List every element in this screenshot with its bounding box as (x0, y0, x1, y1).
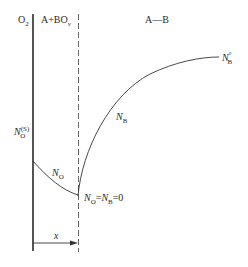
scale-region-label: A+BOν (41, 15, 71, 25)
gas-phase-label: O2 (18, 15, 29, 25)
b-profile-label: NB (116, 112, 127, 122)
diagram-canvas (0, 0, 248, 267)
b-concentration-curve (78, 57, 219, 196)
surface-oxygen-conc-label: N(S)O (14, 127, 25, 137)
alloy-region-label: A—B (145, 15, 169, 25)
reaction-front-condition-label: NO=NB=0 (84, 193, 123, 203)
oxygen-profile-label: NO (52, 168, 64, 178)
depth-x-label: x (54, 231, 58, 241)
bulk-b-conc-label: N°B (222, 53, 232, 63)
depth-arrow-head (70, 241, 78, 246)
